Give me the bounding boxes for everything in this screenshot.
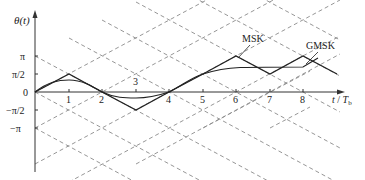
- x-tick-2: 2: [99, 94, 104, 105]
- y-tick-pi-half: π/2: [12, 69, 25, 80]
- y-tick-pi: π: [20, 51, 25, 62]
- phase-trellis-chart: π π/2 0 −π/2 −π θ(t) 1 2 3 4 5 6 7 8 t /…: [0, 0, 365, 180]
- y-tick-neg-pi: −π: [10, 123, 21, 134]
- msk-leader-line: [238, 45, 250, 58]
- y-tick-zero: 0: [23, 87, 28, 98]
- x-tick-1: 1: [66, 94, 71, 105]
- x-axis-label: t / Tb: [332, 94, 352, 107]
- x-tick-8: 8: [300, 94, 305, 105]
- x-tick-4: 4: [166, 94, 171, 105]
- y-tick-neg-pi-half: −π/2: [6, 105, 24, 116]
- axes: [33, 10, 346, 172]
- x-tick-6: 6: [233, 94, 238, 105]
- gmsk-label: GMSK: [306, 40, 336, 51]
- y-axis-arrow-icon: [33, 10, 38, 18]
- trellis-grid: [35, 0, 340, 180]
- x-tick-3: 3: [133, 76, 138, 87]
- x-tick-7: 7: [267, 94, 272, 105]
- msk-curve: [35, 56, 337, 110]
- x-tick-5: 5: [200, 94, 205, 105]
- y-axis-label: θ(t): [14, 14, 30, 27]
- msk-label: MSK: [242, 33, 264, 44]
